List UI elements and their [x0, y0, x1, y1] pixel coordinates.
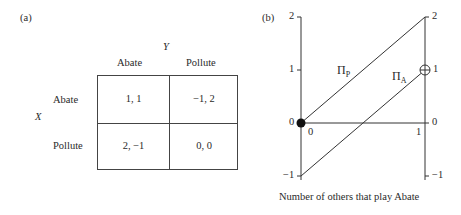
filled-circle-marker	[297, 119, 306, 128]
x-tick: 1	[416, 126, 421, 137]
pi-p-label: ΠP	[337, 63, 350, 79]
right-tick: 2	[432, 10, 437, 21]
x-tick: 0	[308, 126, 313, 137]
panel-b-label: (b)	[262, 12, 274, 23]
pi-a-label: ΠA	[392, 69, 406, 85]
left-tick: 0	[289, 116, 294, 127]
right-tick: 0	[432, 116, 437, 127]
open-circle-marker	[420, 65, 430, 75]
right-tick: −1	[432, 169, 443, 180]
payoff-chart	[0, 0, 461, 215]
right-tick: 1	[433, 63, 438, 74]
left-tick: 1	[289, 63, 294, 74]
left-tick: 2	[289, 10, 294, 21]
left-tick: −1	[283, 169, 294, 180]
x-axis-label: Number of others that play Abate	[279, 191, 419, 202]
